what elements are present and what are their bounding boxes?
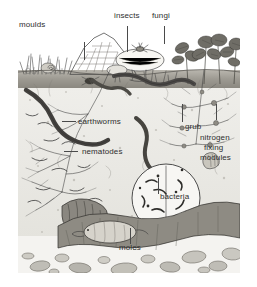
label-modules: modules	[200, 153, 231, 162]
leader-nodules	[216, 104, 217, 120]
label-grub: grub	[185, 122, 201, 131]
leader-grub	[182, 104, 183, 122]
label-moulds: moulds	[19, 20, 45, 29]
leader-moulds	[84, 42, 85, 60]
label-earthworms: earthworms	[78, 117, 121, 126]
leader-earthworms	[62, 121, 76, 122]
label-nematodes: nematodes	[82, 147, 122, 156]
label-bacteria: bacteria	[160, 192, 189, 201]
label-moles: moles	[119, 243, 141, 252]
leader-bacteria	[158, 178, 159, 194]
nematode-glyphs	[26, 114, 102, 203]
leader-moles	[130, 228, 131, 244]
label-fungi: fungi	[152, 11, 170, 20]
leader-fungi	[164, 26, 165, 44]
leader-insects	[127, 26, 128, 52]
label-nitrogen: nitrogen	[200, 133, 230, 142]
leader-nematodes	[64, 151, 78, 152]
figure-canvas: moulds insects fungi earthworms nematode…	[0, 0, 257, 287]
label-fixing: fixing	[204, 143, 223, 152]
label-insects: insects	[114, 11, 140, 20]
